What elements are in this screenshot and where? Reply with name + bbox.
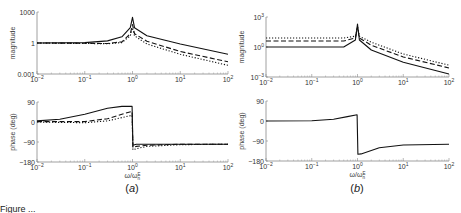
x-axis-label: ω/ωEn xyxy=(125,172,141,182)
y-axis-label: magnitude xyxy=(9,27,17,60)
svg-text:102: 102 xyxy=(444,77,455,86)
svg-text:−180: −180 xyxy=(248,158,264,165)
svg-text:−90: −90 xyxy=(23,139,35,146)
svg-text:102: 102 xyxy=(444,161,455,170)
svg-text:102: 102 xyxy=(223,162,234,171)
svg-text:101: 101 xyxy=(175,162,186,171)
svg-text:0: 0 xyxy=(260,118,264,125)
series-solid xyxy=(266,24,449,74)
svg-text:−90: −90 xyxy=(252,138,264,145)
plot-b-phase: 10−210−1100101102−180−90090phase (deg)ω/… xyxy=(238,98,455,181)
svg-text:10−2: 10−2 xyxy=(259,77,273,86)
svg-text:100: 100 xyxy=(253,42,264,51)
x-axis-label: ω/ωEn xyxy=(350,171,366,181)
svg-text:90: 90 xyxy=(27,99,35,106)
svg-text:100: 100 xyxy=(352,77,363,86)
svg-text:10−1: 10−1 xyxy=(78,74,92,83)
svg-text:1: 1 xyxy=(31,40,35,47)
svg-text:102: 102 xyxy=(223,74,234,83)
series-dotted xyxy=(37,28,228,66)
series-solid xyxy=(37,17,228,54)
series-dotted xyxy=(266,27,449,65)
series-solid xyxy=(266,115,449,155)
svg-text:101: 101 xyxy=(175,74,186,83)
svg-text:1000: 1000 xyxy=(19,9,35,16)
svg-text:10−1: 10−1 xyxy=(305,77,319,86)
svg-text:100: 100 xyxy=(352,161,363,170)
y-axis-label: magnitude xyxy=(238,31,246,64)
y-axis-label: phase (deg) xyxy=(238,112,246,149)
panel-label: (a) xyxy=(125,182,138,194)
svg-text:100: 100 xyxy=(127,74,138,83)
figure-caption: Figure ... xyxy=(0,204,36,213)
plot-a-phase: 10−210−1100101102−180−90090phase (deg)ω/… xyxy=(9,99,234,182)
svg-text:100: 100 xyxy=(127,162,138,171)
svg-text:10−1: 10−1 xyxy=(78,162,92,171)
y-axis-label: phase (deg) xyxy=(9,113,17,150)
svg-text:90: 90 xyxy=(256,98,264,105)
svg-text:103: 103 xyxy=(253,12,264,21)
svg-text:0.001: 0.001 xyxy=(17,71,35,78)
panel-label: (b) xyxy=(350,182,363,194)
figure: 10−210−11001011020.00111000magnitude10−2… xyxy=(0,0,461,213)
plot-a-magnitude: 10−210−11001011020.00111000magnitude xyxy=(9,9,234,84)
svg-text:−180: −180 xyxy=(19,159,35,166)
plot-b-magnitude: 10−210−110010110210−3100103magnitude xyxy=(238,12,455,87)
svg-text:101: 101 xyxy=(398,161,409,170)
svg-text:0: 0 xyxy=(31,119,35,126)
svg-text:101: 101 xyxy=(398,77,409,86)
svg-text:10−1: 10−1 xyxy=(305,161,319,170)
